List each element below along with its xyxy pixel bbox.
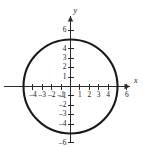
y-tick-label-group: 64321–1–2–3–4–6 bbox=[58, 25, 67, 147]
y-tick-label: –1 bbox=[58, 91, 67, 100]
graph-canvas: –4–3–2–112346 64321–1–2–3–4–6 x y bbox=[0, 0, 143, 147]
x-tick-label: 4 bbox=[106, 90, 110, 99]
x-tick-label: –3 bbox=[38, 90, 47, 99]
x-tick-label: 2 bbox=[87, 90, 91, 99]
y-axis-arrow-icon bbox=[68, 16, 73, 22]
x-tick-label: –4 bbox=[28, 90, 37, 99]
x-tick-label: 6 bbox=[125, 90, 129, 99]
y-tick-label: –2 bbox=[58, 100, 67, 109]
y-tick-label: –4 bbox=[58, 119, 67, 128]
y-tick-label: –6 bbox=[58, 138, 67, 147]
y-tick-label: 1 bbox=[63, 72, 67, 81]
axis-group bbox=[4, 16, 130, 143]
y-tick-label: 4 bbox=[63, 44, 67, 53]
y-tick-label: 6 bbox=[63, 25, 67, 34]
x-tick-label: 3 bbox=[97, 90, 101, 99]
coordinate-plane-figure: –4–3–2–112346 64321–1–2–3–4–6 x y bbox=[0, 0, 143, 147]
y-tick-label: 2 bbox=[63, 62, 67, 71]
x-tick-label-group: –4–3–2–112346 bbox=[28, 90, 129, 99]
y-tick-label: 3 bbox=[63, 53, 67, 62]
y-axis-label: y bbox=[73, 6, 78, 15]
x-tick-label: 1 bbox=[78, 90, 82, 99]
x-axis-label: x bbox=[133, 76, 138, 85]
y-tick-label: –3 bbox=[58, 109, 67, 118]
x-tick-label: –2 bbox=[47, 90, 56, 99]
